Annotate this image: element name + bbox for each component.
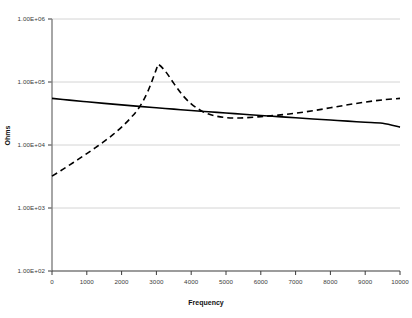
x-axis-title: Frequency: [0, 299, 412, 306]
y-tick-label: 1.00E+02: [0, 267, 45, 274]
y-tick-label: 1.00E+06: [0, 15, 45, 22]
series-line-solid: [52, 98, 400, 127]
x-tick-marks-group: [52, 271, 400, 275]
y-tick-label: 1.00E+05: [0, 78, 45, 85]
y-tick-label: 1.00E+03: [0, 204, 45, 211]
y-axis-title: Ohms: [4, 113, 11, 159]
chart-container: 1.00E+021.00E+031.00E+041.00E+051.00E+06…: [0, 0, 412, 318]
chart-plot-svg: [0, 0, 412, 318]
series-line-dashed: [52, 64, 400, 176]
x-tick-label: 10000: [380, 278, 412, 285]
